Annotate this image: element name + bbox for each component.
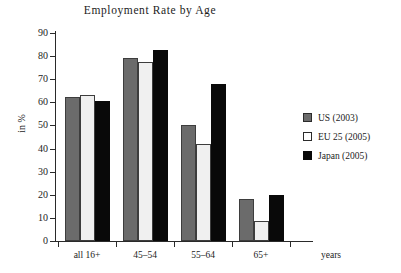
y-axis-tick-label: 40 — [8, 144, 48, 154]
plot-area — [56, 33, 312, 241]
y-axis-tick-label: 0 — [8, 236, 48, 246]
x-axis-tick — [174, 242, 175, 247]
x-axis-line — [55, 241, 313, 242]
x-axis-title: years — [321, 250, 341, 260]
x-axis-category-label: 45–54 — [116, 250, 174, 261]
y-axis-tick — [50, 241, 55, 242]
y-axis-tick — [50, 33, 55, 34]
legend-item[interactable]: Japan (2005) — [303, 146, 401, 165]
bar — [181, 125, 196, 241]
y-axis-tick-label: 20 — [8, 190, 48, 200]
x-axis-category-label: all 16+ — [58, 250, 116, 261]
bar — [153, 50, 168, 241]
bar — [138, 62, 153, 241]
black-swatch-icon — [303, 151, 312, 160]
bar — [254, 221, 269, 241]
bar — [80, 95, 95, 241]
y-axis-tick — [50, 149, 55, 150]
x-axis-category-label: 55–64 — [174, 250, 232, 261]
bar-group — [181, 33, 226, 241]
x-axis-tick — [116, 242, 117, 247]
bar — [239, 199, 254, 241]
bar-group — [65, 33, 110, 241]
y-axis-tick-label: 60 — [8, 97, 48, 107]
chart-title: Employment Rate by Age — [0, 4, 300, 16]
chart-legend: US (2003)EU 25 (2005)Japan (2005) — [303, 108, 401, 165]
bar — [196, 144, 211, 241]
y-axis-tick — [50, 56, 55, 57]
y-axis-tick-label: 90 — [8, 28, 48, 38]
employment-rate-chart: Employment Rate by Age in % years 010203… — [0, 0, 401, 273]
bar — [211, 84, 226, 241]
legend-item-label: EU 25 (2005) — [318, 132, 370, 142]
x-axis-tick — [232, 242, 233, 247]
y-axis-tick — [50, 125, 55, 126]
legend-item[interactable]: EU 25 (2005) — [303, 127, 401, 146]
y-axis-tick-label: 10 — [8, 213, 48, 223]
legend-item-label: US (2003) — [318, 113, 358, 123]
y-axis-tick-label: 30 — [8, 167, 48, 177]
y-axis-tick-label: 80 — [8, 51, 48, 61]
y-axis-tick — [50, 195, 55, 196]
x-axis-tick — [58, 242, 59, 247]
y-axis-tick — [50, 172, 55, 173]
bar — [65, 97, 80, 241]
bar-group — [239, 33, 284, 241]
legend-item-label: Japan (2005) — [318, 151, 367, 161]
y-axis-tick-label: 50 — [8, 120, 48, 130]
gray-swatch-icon — [303, 113, 312, 122]
y-axis-tick-label: 70 — [8, 74, 48, 84]
bar — [123, 58, 138, 241]
bar — [269, 195, 284, 241]
bar-group — [123, 33, 168, 241]
y-axis-tick — [50, 102, 55, 103]
bar — [95, 101, 110, 241]
x-axis-category-label: 65+ — [232, 250, 290, 261]
x-axis-tick — [290, 242, 291, 247]
y-axis-tick — [50, 79, 55, 80]
y-axis-tick — [50, 218, 55, 219]
legend-item[interactable]: US (2003) — [303, 108, 401, 127]
white-swatch-icon — [303, 132, 312, 141]
